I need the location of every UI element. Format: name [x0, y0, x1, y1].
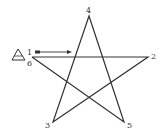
- vertex-label-3: 3: [45, 121, 50, 130]
- vertex-label-1: 1: [27, 48, 32, 57]
- vertex-label-4: 4: [86, 6, 91, 15]
- direction-arrow-icon: [35, 50, 72, 54]
- vertex-label-6: 6: [27, 59, 32, 68]
- pentagram-diagram: 1 2 3 4 5 6: [0, 0, 163, 136]
- vertex-label-2: 2: [151, 52, 156, 61]
- vertex-label-5: 5: [127, 121, 132, 130]
- start-triangle-icon: [12, 49, 25, 60]
- pentagram-path: [32, 16, 148, 122]
